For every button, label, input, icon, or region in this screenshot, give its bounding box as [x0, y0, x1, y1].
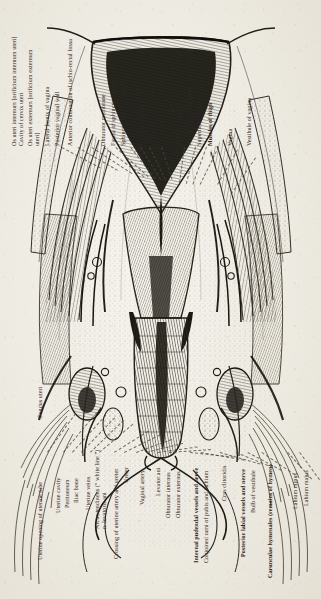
- label-text: Fascia of sphincter urethrae: [111, 77, 117, 146]
- label-vaginal-artery: Vaginal artery: [140, 470, 147, 505]
- label-vagina: Vagina: [228, 129, 235, 146]
- label-text: Lateral fornix of vagina: [45, 87, 51, 146]
- label-ischio-cavernosus: Ischio-cavernosus: [176, 101, 183, 146]
- label-text-line2: uteri]: [35, 49, 42, 146]
- label-ureter: Ureter: [124, 467, 131, 483]
- label-fundus-uteri: Fundus uteri: [38, 387, 45, 418]
- label-text: Crossing of uterine artery and ureter: [114, 469, 120, 559]
- label-text: Vaginal artery: [140, 470, 146, 505]
- label-text-line2: Cavity of cervix uteri: [19, 36, 26, 146]
- label-posterior-labial-vessels-and-nerve: Posterior labial vessels and nerve: [241, 469, 248, 557]
- label-text: Os uteri externum [orificium externum: [28, 49, 34, 146]
- label-text: Anterior continuation of ischio-rectal f…: [68, 39, 74, 146]
- label-uterine-opening-of-uterine-tube: Uterine opening of uterine tube: [38, 482, 45, 560]
- label-text: Iliac bone: [74, 478, 80, 503]
- label-text: Ureter: [124, 467, 130, 483]
- label-superficial-aponeurosis: Superficial aponeurosis: [197, 87, 204, 146]
- label-os-uteri-internum: Os uteri internum [orificium internum ut…: [12, 36, 26, 146]
- label-text: Posterior vaginal wall: [55, 91, 61, 146]
- label-text-line2: n. levatoris ani: [102, 450, 109, 529]
- label-fascia-of-sphincter-urethrae: Fascia of sphincter urethrae: [111, 77, 118, 146]
- label-text: Ischio-cavernosus: [176, 101, 182, 146]
- label-labium-majus: Labium majus: [304, 470, 311, 506]
- label-text: Vagina: [228, 129, 234, 146]
- leader-line: [103, 147, 144, 177]
- label-text: Fundus uteri: [38, 387, 44, 418]
- label-text: Arcus tendineus (“ white line ”): [95, 450, 101, 529]
- label-text: Labium majus: [304, 470, 310, 506]
- label-text: Superficial aponeurosis: [197, 87, 203, 146]
- label-os-uteri-externum: Os uteri externum [orificium externum ut…: [28, 49, 42, 146]
- leader-line: [63, 412, 97, 452]
- label-text: Crus clitoridis: [222, 466, 228, 501]
- label-uterine-cavity: Uterine cavity: [56, 478, 63, 513]
- label-crus-clitoridis: Crus clitoridis: [222, 466, 229, 501]
- label-peritoneum: Peritoneum: [65, 479, 72, 508]
- label-text: Carunculae hymenales (remains of hymen): [268, 464, 274, 578]
- label-text: Vestibule of vagina: [247, 98, 253, 146]
- label-bulbo-spongiosus: Bulbo-spongiosus [bulbo-cavernosus]: [187, 52, 194, 146]
- leader-line: [91, 147, 132, 174]
- label-text: Obturator internus: [166, 472, 172, 518]
- label-text: Perineal membrane: [139, 98, 145, 146]
- label-perineal-membrane: Perineal membrane: [139, 98, 146, 146]
- label-carunculae-hymenales: Carunculae hymenales (remains of hymen): [268, 464, 275, 578]
- label-muscles-of-thigh: Muscles of thigh: [208, 103, 215, 146]
- label-bulb-of-vestibule: Bulb of vestibule: [251, 470, 258, 513]
- label-text: Posterior labial vessels and nerve: [241, 469, 247, 557]
- label-text: Conjoined rami of pubis and ischium: [204, 471, 210, 563]
- label-arcus-tendineus: Arcus tendineus (“ white line ”) n. leva…: [95, 450, 109, 529]
- label-text: Uterine cavity: [56, 478, 62, 513]
- leader-line: [200, 147, 219, 185]
- leader-line: [179, 147, 185, 183]
- label-internal-pudendal-vessels-and-nerve: Internal pudendal vessels and nerve: [194, 468, 201, 563]
- leader-line: [47, 413, 76, 452]
- label-posterior-vaginal-wall: Posterior vaginal wall: [55, 91, 62, 146]
- label-anterior-continuation-ischio-rectal-fossa: Anterior continuation of ischio-rectal f…: [68, 39, 75, 146]
- label-lateral-fornix-of-vagina: Lateral fornix of vagina: [45, 87, 52, 146]
- label-text: Uterine opening of uterine tube: [38, 482, 44, 560]
- leader-line: [231, 157, 256, 194]
- label-text: Labium minus: [293, 473, 299, 509]
- label-obturator-externus: Obturator externus: [176, 471, 183, 518]
- label-conjoined-rami-of-pubis-and-ischium: Conjoined rami of pubis and ischium: [204, 471, 211, 563]
- label-sphincter-urethrae-muscle: Sphincter urethrae muscle: [121, 81, 128, 146]
- label-text: Levator ani: [156, 468, 162, 496]
- label-text: Bulbo-spongiosus [bulbo-cavernosus]: [187, 52, 193, 146]
- anatomical-plate: Os uteri internum [orificium internum ut…: [0, 0, 321, 599]
- label-iliac-bone: Iliac bone: [74, 478, 81, 503]
- label-text: Obturator membrane: [101, 94, 107, 146]
- label-text: Peritoneum: [65, 479, 71, 508]
- label-levator-ani: Levator ani: [156, 468, 163, 496]
- label-text: Internal pudendal vessels and nerve: [194, 468, 200, 563]
- label-text: Uterine veins: [86, 477, 92, 510]
- label-obturator-membrane: Obturator membrane: [101, 94, 108, 146]
- label-text: Sphincter urethrae muscle: [121, 81, 127, 146]
- label-text: Obturator externus: [176, 471, 182, 518]
- label-obturator-internus: Obturator internus: [166, 472, 173, 518]
- label-uterine-veins: Uterine veins: [86, 477, 93, 510]
- leader-line: [217, 150, 238, 185]
- label-labium-minus: Labium minus: [293, 473, 300, 509]
- label-crossing-of-uterine-artery-and-ureter: Crossing of uterine artery and ureter: [114, 469, 121, 559]
- label-vestibule-of-vagina: Vestibule of vagina: [247, 98, 254, 146]
- label-text: Bulb of vestibule: [251, 470, 257, 513]
- label-text: Muscles of thigh: [208, 103, 214, 146]
- label-text: Os uteri internum [orificium internum ut…: [12, 36, 18, 146]
